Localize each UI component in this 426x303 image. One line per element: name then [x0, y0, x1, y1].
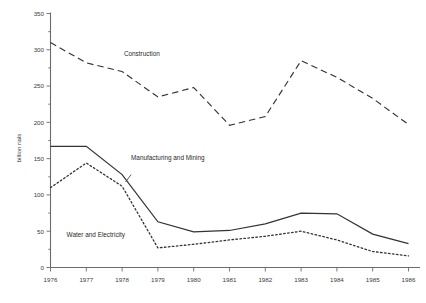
y-tick-label: 0 — [41, 264, 45, 271]
x-tick-label: 1983 — [294, 276, 308, 283]
series-line-construction — [51, 43, 409, 126]
series-label-water-and-electricity: Water and Electricity — [67, 231, 126, 239]
y-tick-label: 250 — [34, 82, 45, 89]
line-chart: 0501001502002503003501976197719781979198… — [0, 0, 426, 303]
x-tick-label: 1978 — [115, 276, 129, 283]
series-label-construction: Construction — [124, 50, 160, 57]
y-tick-label: 100 — [34, 191, 45, 198]
x-tick-label: 1979 — [151, 276, 165, 283]
series-line-water-and-electricity — [51, 163, 409, 256]
y-tick-label: 200 — [34, 119, 45, 126]
y-tick-label: 150 — [34, 155, 45, 162]
x-tick-label: 1976 — [44, 276, 58, 283]
x-tick-label: 1982 — [258, 276, 272, 283]
x-tick-label: 1980 — [187, 276, 201, 283]
x-tick-label: 1986 — [402, 276, 416, 283]
series-label-manufacturing-and-mining: Manufacturing and Mining — [131, 154, 205, 162]
x-tick-label: 1977 — [79, 276, 93, 283]
y-axis-title: billion rials — [15, 134, 22, 163]
x-tick-label: 1984 — [330, 276, 344, 283]
y-tick-label: 50 — [37, 228, 44, 235]
chart-container: 0501001502002503003501976197719781979198… — [0, 0, 426, 303]
series-line-manufacturing-and-mining — [51, 146, 409, 243]
x-tick-label: 1981 — [223, 276, 237, 283]
manufacturing-label-leader — [126, 175, 132, 182]
x-tick-label: 1985 — [366, 276, 380, 283]
y-tick-label: 300 — [34, 46, 45, 53]
y-tick-label: 350 — [34, 10, 45, 17]
